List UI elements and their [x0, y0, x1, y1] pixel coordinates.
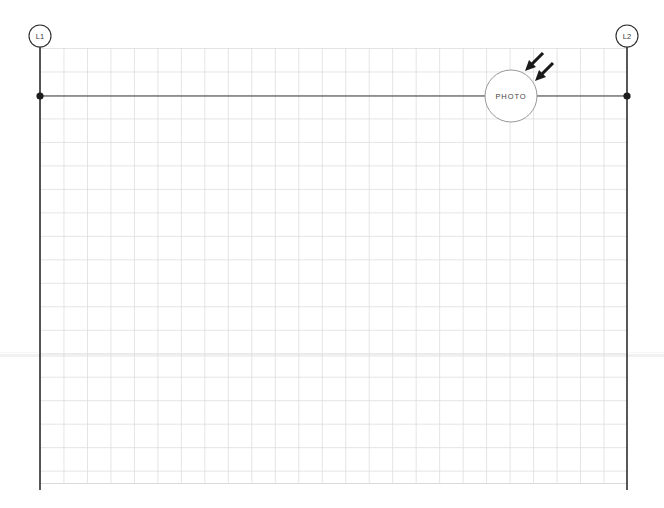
dimension-node-left	[36, 92, 43, 99]
photo-marker[interactable]: PHOTO	[485, 70, 537, 122]
gridline-L1-label: L1	[36, 32, 45, 41]
dimension-node-right	[623, 92, 630, 99]
drawing-canvas: L1 L2 PHOTO	[0, 0, 664, 508]
photo-marker-label: PHOTO	[495, 92, 526, 101]
planning-grid	[40, 48, 627, 483]
drawing-svg: L1 L2 PHOTO	[0, 0, 664, 508]
gridline-L2-label: L2	[623, 32, 632, 41]
